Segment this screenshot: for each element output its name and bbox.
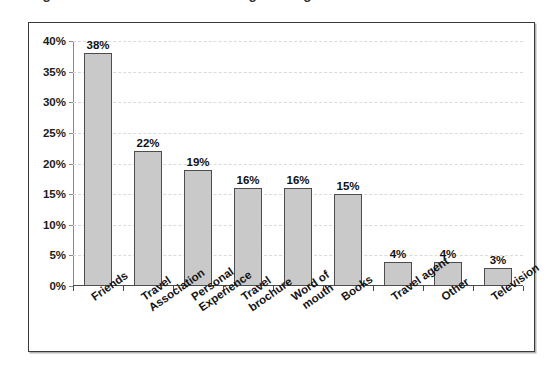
y-axis-tick-label: 0% bbox=[49, 280, 66, 292]
bar[interactable]: 16% bbox=[284, 188, 312, 286]
x-axis-tick-mark bbox=[423, 286, 424, 291]
bar-value-label: 16% bbox=[236, 174, 259, 186]
bar[interactable]: 38% bbox=[84, 53, 112, 286]
bar-value-label: 38% bbox=[86, 39, 109, 51]
y-axis-tick-mark bbox=[69, 164, 73, 165]
x-axis-tick-mark bbox=[473, 286, 474, 291]
y-axis-tick-label: 20% bbox=[43, 158, 66, 170]
y-axis-tick-mark bbox=[69, 72, 73, 73]
gridline bbox=[73, 133, 523, 134]
y-axis-tick-mark bbox=[69, 255, 73, 256]
y-axis-tick-label: 10% bbox=[43, 219, 66, 231]
x-axis-tick-mark bbox=[73, 286, 74, 291]
y-axis-tick-label: 25% bbox=[43, 127, 66, 139]
plot-area: 0%5%10%15%20%25%30%35%40% 38%22%19%16%16… bbox=[73, 41, 523, 286]
bar-value-label: 3% bbox=[490, 254, 507, 266]
y-axis-tick-mark bbox=[69, 133, 73, 134]
bar-value-label: 15% bbox=[336, 180, 359, 192]
gridline bbox=[73, 72, 523, 73]
y-axis-tick-label: 30% bbox=[43, 96, 66, 108]
y-axis-tick-mark bbox=[69, 41, 73, 42]
bar-value-label: 4% bbox=[390, 248, 407, 260]
y-axis-tick-label: 15% bbox=[43, 188, 66, 200]
y-axis-tick-label: 40% bbox=[43, 35, 66, 47]
page-title: Figure: Sources consulted when gathering… bbox=[30, 0, 530, 5]
bar[interactable]: 22% bbox=[134, 151, 162, 286]
chart-frame: 0%5%10%15%20%25%30%35%40% 38%22%19%16%16… bbox=[28, 22, 535, 352]
gridline bbox=[73, 102, 523, 103]
bar-value-label: 22% bbox=[136, 137, 159, 149]
x-axis-tick-mark bbox=[523, 286, 524, 291]
y-axis-tick-label: 5% bbox=[49, 249, 66, 261]
x-axis-tick-mark bbox=[123, 286, 124, 291]
bar-value-label: 16% bbox=[286, 174, 309, 186]
x-axis-tick-mark bbox=[373, 286, 374, 291]
y-axis-tick-mark bbox=[69, 102, 73, 103]
gridline bbox=[73, 41, 523, 42]
y-axis-tick-mark bbox=[69, 225, 73, 226]
y-axis-tick-mark bbox=[69, 194, 73, 195]
y-axis-tick-label: 35% bbox=[43, 66, 66, 78]
bar[interactable]: 15% bbox=[334, 194, 362, 286]
bar-value-label: 19% bbox=[186, 156, 209, 168]
